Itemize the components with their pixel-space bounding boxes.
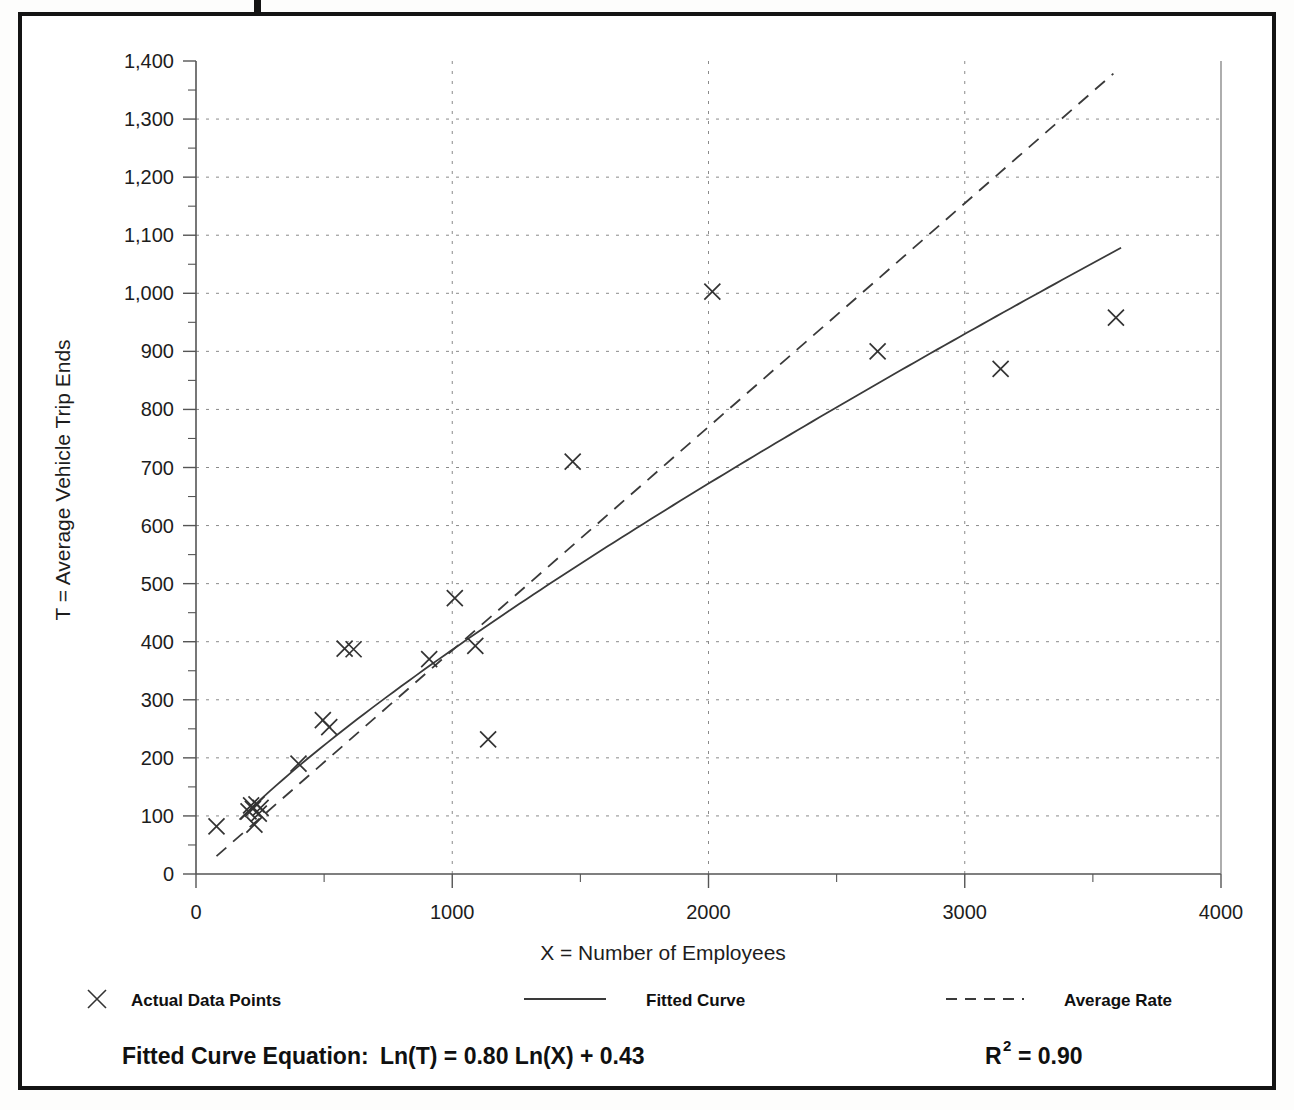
y-tick-label: 200 (141, 747, 174, 769)
x-tick-label: 2000 (686, 901, 731, 923)
x-tick-label: 4000 (1199, 901, 1244, 923)
y-axis-tick-labels: 01002003004005006007008009001,0001,1001,… (124, 50, 174, 885)
x-axis-tick-labels: 01000200030004000 (190, 901, 1243, 923)
x-marker-icon (88, 990, 106, 1008)
data-point-marker (1108, 310, 1124, 326)
r-squared-exponent: 2 (1003, 1037, 1011, 1054)
y-tick-label: 500 (141, 573, 174, 595)
y-tick-label: 1,000 (124, 282, 174, 304)
legend-item-fitted-curve[interactable]: Fitted Curve (524, 991, 745, 1010)
data-point-markers (209, 284, 1124, 835)
data-point-marker (321, 719, 337, 735)
data-point-marker (480, 731, 496, 747)
legend-label-actual: Actual Data Points (131, 991, 281, 1010)
y-tick-label: 1,200 (124, 166, 174, 188)
fitted-curve-line (240, 248, 1122, 820)
y-tick-label: 1,400 (124, 50, 174, 72)
data-point-marker (209, 818, 225, 834)
fitted-equation-body: Ln(T) = 0.80 Ln(X) + 0.43 (380, 1043, 645, 1069)
data-point-marker (467, 638, 483, 654)
legend-item-actual-data-points[interactable]: Actual Data Points (88, 990, 281, 1010)
x-axis-title: X = Number of Employees (540, 941, 786, 964)
y-axis-ticks (183, 61, 196, 874)
legend-label-average: Average Rate (1064, 991, 1172, 1010)
y-tick-label: 900 (141, 340, 174, 362)
y-tick-label: 1,300 (124, 108, 174, 130)
data-point-marker (447, 590, 463, 606)
y-tick-label: 700 (141, 457, 174, 479)
data-point-marker (421, 651, 437, 667)
data-point-marker (993, 361, 1009, 377)
x-tick-label: 0 (190, 901, 201, 923)
x-axis-ticks (196, 874, 1221, 888)
footnote-equation: Fitted Curve Equation: Ln(T) = 0.80 Ln(X… (122, 1037, 1083, 1069)
y-tick-label: 600 (141, 515, 174, 537)
data-point-marker (337, 641, 353, 657)
x-tick-label: 1000 (430, 901, 475, 923)
y-tick-label: 0 (163, 863, 174, 885)
y-tick-label: 300 (141, 689, 174, 711)
r-squared-value: = 0.90 (1018, 1043, 1083, 1069)
figure-page: 01002003004005006007008009001,0001,1001,… (0, 0, 1294, 1110)
legend-item-average-rate[interactable]: Average Rate (946, 991, 1172, 1010)
data-point-marker (346, 641, 362, 657)
data-point-marker (704, 284, 720, 300)
y-tick-label: 100 (141, 805, 174, 827)
average-rate-line (217, 74, 1114, 857)
x-tick-label: 3000 (943, 901, 988, 923)
data-point-marker (565, 454, 581, 470)
legend-label-fitted: Fitted Curve (646, 991, 745, 1010)
y-tick-label: 1,100 (124, 224, 174, 246)
data-point-marker (870, 343, 886, 359)
scatter-chart: 01002003004005006007008009001,0001,1001,… (0, 0, 1294, 1110)
legend: Actual Data Points Fitted Curve Average … (88, 990, 1172, 1010)
r-squared-base: R (985, 1043, 1002, 1069)
fitted-equation-label: Fitted Curve Equation: (122, 1043, 369, 1069)
y-tick-label: 400 (141, 631, 174, 653)
y-axis-title: T = Average Vehicle Trip Ends (51, 339, 74, 620)
y-tick-label: 800 (141, 398, 174, 420)
